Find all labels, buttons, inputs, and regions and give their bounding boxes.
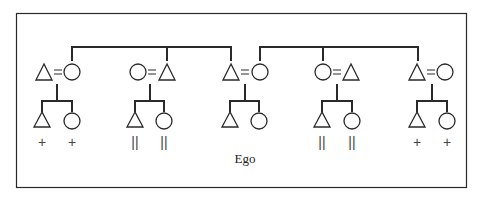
- parallel-cousin-mark: ||: [131, 134, 138, 150]
- couple-5: + +: [409, 64, 455, 150]
- parallel-cousin-mark: ||: [318, 134, 325, 150]
- male-triangle-icon: [409, 64, 425, 80]
- cross-cousin-mark: +: [68, 134, 76, 150]
- parallel-cousin-mark: ||: [160, 134, 167, 150]
- father-sibling-bracket: [72, 47, 231, 61]
- cross-cousin-mark: +: [413, 134, 421, 150]
- female-circle-icon: [437, 64, 453, 80]
- parallel-cousin-mark: ||: [348, 134, 355, 150]
- female-circle-icon: [130, 64, 146, 80]
- kinship-diagram: + + || || Ego || ||: [0, 0, 479, 197]
- male-triangle-icon: [343, 64, 359, 80]
- couple-2: || ||: [127, 64, 175, 150]
- female-circle-icon: [315, 64, 331, 80]
- female-circle-icon: [439, 113, 455, 129]
- female-circle-icon: [156, 113, 172, 129]
- male-triangle-icon: [36, 64, 52, 80]
- ego-label: Ego: [235, 151, 256, 166]
- cross-cousin-mark: +: [38, 134, 46, 150]
- couple-4: || ||: [314, 64, 360, 150]
- male-triangle-icon: [222, 112, 238, 127]
- female-circle-icon: [252, 64, 268, 80]
- male-triangle-icon: [223, 64, 239, 80]
- male-triangle-icon: [34, 112, 50, 127]
- male-triangle-icon: [409, 112, 425, 127]
- mother-sibling-bracket: [260, 47, 418, 61]
- female-circle-icon: [251, 113, 267, 129]
- female-circle-icon: [64, 113, 80, 129]
- female-circle-icon: [344, 113, 360, 129]
- male-triangle-icon: [127, 112, 143, 127]
- couple-1: + +: [34, 64, 80, 150]
- female-circle-icon: [64, 64, 80, 80]
- couple-3-ego-parents: [222, 64, 268, 129]
- cross-cousin-mark: +: [443, 134, 451, 150]
- male-triangle-icon: [159, 64, 175, 80]
- male-triangle-icon: [314, 112, 330, 127]
